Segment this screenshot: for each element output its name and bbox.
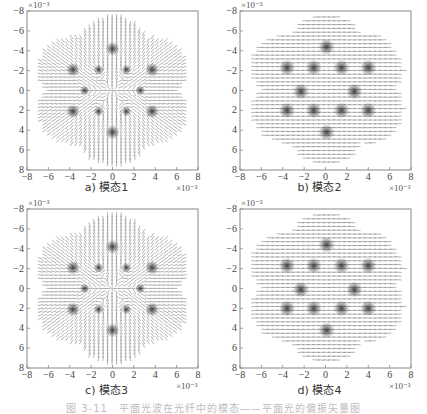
y-tick-label: −4 xyxy=(223,244,237,254)
y-tick-label: −4 xyxy=(223,46,237,56)
x-tick-label: 4 xyxy=(147,172,163,182)
x-tick-label: −4 xyxy=(275,172,291,182)
x-tick-label: 4 xyxy=(360,370,376,380)
x-tick-label: 6 xyxy=(169,172,185,182)
y-tick-label: −8 xyxy=(223,6,237,16)
y-tick-label: 8 xyxy=(223,165,237,175)
panel-mode-4: d) 模态4 −8−6−4−202468−8−6−4−202468×10⁻³×1… xyxy=(213,198,426,393)
x-tick-label: 4 xyxy=(360,172,376,182)
x-tick-label: 0 xyxy=(318,370,334,380)
y-scale-label: ×10⁻³ xyxy=(28,0,50,10)
x-tick-label: 2 xyxy=(339,370,355,380)
x-tick-label: 8 xyxy=(403,370,419,380)
y-tick-label: 2 xyxy=(223,105,237,115)
y-tick-label: −2 xyxy=(10,66,24,76)
y-tick-label: 2 xyxy=(10,105,24,115)
x-tick-label: −4 xyxy=(275,370,291,380)
y-scale-label: ×10⁻³ xyxy=(241,0,263,10)
y-tick-label: 0 xyxy=(10,284,24,294)
y-tick-label: −4 xyxy=(10,244,24,254)
x-scale-label: ×10⁻³ xyxy=(176,183,198,193)
y-tick-label: −4 xyxy=(10,46,24,56)
panel-mode-2: b) 模态2 −8−6−4−202468−8−6−4−202468×10⁻³×1… xyxy=(213,0,426,195)
y-tick-label: 4 xyxy=(223,125,237,135)
x-scale-label: ×10⁻³ xyxy=(176,381,198,391)
y-tick-label: 2 xyxy=(223,303,237,313)
x-tick-label: 2 xyxy=(339,172,355,182)
x-tick-label: 2 xyxy=(126,370,142,380)
y-tick-label: −8 xyxy=(223,204,237,214)
y-scale-label: ×10⁻³ xyxy=(28,198,50,208)
quiver-plot-mode-2 xyxy=(213,0,426,195)
x-tick-label: 4 xyxy=(147,370,163,380)
y-tick-label: 2 xyxy=(10,303,24,313)
y-tick-label: 4 xyxy=(223,323,237,333)
y-tick-label: 6 xyxy=(223,145,237,155)
x-tick-label: 6 xyxy=(382,370,398,380)
quiver-plot-mode-3 xyxy=(0,198,213,393)
x-tick-label: −2 xyxy=(296,370,312,380)
x-tick-label: 2 xyxy=(126,172,142,182)
x-tick-label: −4 xyxy=(62,370,78,380)
y-tick-label: 0 xyxy=(223,284,237,294)
y-tick-label: 8 xyxy=(223,363,237,373)
x-scale-label: ×10⁻³ xyxy=(389,381,411,391)
y-tick-label: 4 xyxy=(10,323,24,333)
panel-mode-3: c) 模态3 −8−6−4−202468−8−6−4−202468×10⁻³×1… xyxy=(0,198,213,393)
y-tick-label: 0 xyxy=(10,86,24,96)
figure-caption: 图 3-11 平面光波在光纤中的模态——平面光的偏振矢量图 xyxy=(0,400,427,414)
x-tick-label: −6 xyxy=(40,370,56,380)
x-tick-label: 8 xyxy=(190,370,206,380)
y-tick-label: 6 xyxy=(10,145,24,155)
y-tick-label: −8 xyxy=(10,6,24,16)
y-tick-label: −6 xyxy=(223,26,237,36)
x-tick-label: −6 xyxy=(253,370,269,380)
y-tick-label: −6 xyxy=(10,26,24,36)
quiver-plot-mode-4 xyxy=(213,198,426,393)
x-tick-label: 0 xyxy=(318,172,334,182)
y-tick-label: −8 xyxy=(10,204,24,214)
y-tick-label: 0 xyxy=(223,86,237,96)
x-tick-label: −2 xyxy=(83,370,99,380)
x-tick-label: 6 xyxy=(382,172,398,182)
y-scale-label: ×10⁻³ xyxy=(241,198,263,208)
y-tick-label: 6 xyxy=(223,343,237,353)
x-tick-label: −6 xyxy=(40,172,56,182)
x-tick-label: 6 xyxy=(169,370,185,380)
y-tick-label: −6 xyxy=(10,224,24,234)
x-tick-label: −2 xyxy=(296,172,312,182)
x-tick-label: 0 xyxy=(105,370,121,380)
y-tick-label: −2 xyxy=(223,66,237,76)
y-tick-label: −2 xyxy=(10,264,24,274)
y-tick-label: −2 xyxy=(223,264,237,274)
quiver-plot-mode-1 xyxy=(0,0,213,195)
panel-mode-1: a) 模态1 −8−6−4−202468−8−6−4−202468×10⁻³×1… xyxy=(0,0,213,195)
y-tick-label: 8 xyxy=(10,363,24,373)
x-tick-label: −6 xyxy=(253,172,269,182)
y-tick-label: 4 xyxy=(10,125,24,135)
y-tick-label: 6 xyxy=(10,343,24,353)
x-tick-label: 8 xyxy=(403,172,419,182)
x-tick-label: 8 xyxy=(190,172,206,182)
x-tick-label: 0 xyxy=(105,172,121,182)
y-tick-label: −6 xyxy=(223,224,237,234)
x-tick-label: −4 xyxy=(62,172,78,182)
y-tick-label: 8 xyxy=(10,165,24,175)
x-tick-label: −2 xyxy=(83,172,99,182)
x-scale-label: ×10⁻³ xyxy=(389,183,411,193)
